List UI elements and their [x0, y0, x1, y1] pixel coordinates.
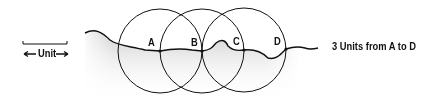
arrow-right-icon	[56, 52, 68, 57]
point-d	[284, 47, 287, 50]
point-d-label: D	[274, 35, 281, 47]
unit-label: Unit	[38, 47, 56, 59]
point-b	[200, 49, 203, 52]
point-c-label: C	[233, 35, 240, 47]
arrow-left-icon	[24, 52, 36, 57]
point-a	[158, 49, 161, 52]
point-c	[242, 48, 245, 51]
unit-scale-bracket	[23, 41, 67, 44]
point-b-label: B	[191, 36, 198, 48]
caption: 3 Units from A to D	[332, 40, 416, 52]
point-a-label: A	[148, 36, 155, 48]
